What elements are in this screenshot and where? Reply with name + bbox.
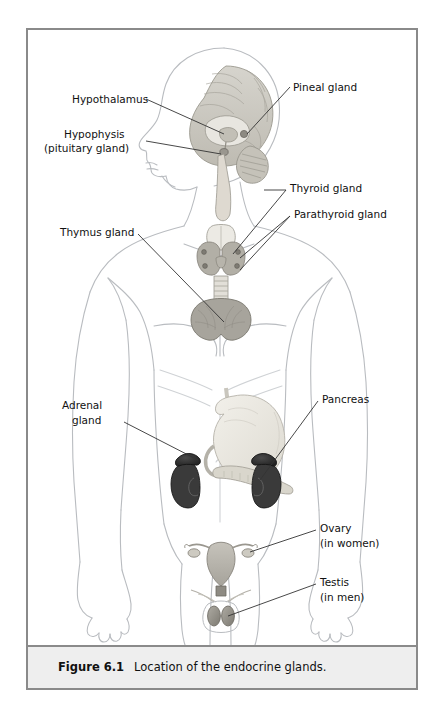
brain-sagittal-section (190, 66, 273, 221)
figure-caption-label: Figure 6.1 (58, 660, 124, 674)
leader-adrenal (124, 422, 198, 460)
uterus-organ (207, 542, 235, 586)
endocrine-glands-diagram (28, 30, 416, 645)
figure-caption-body: Location of the endocrine glands. (134, 660, 326, 674)
label-hypothalamus: Hypothalamus (72, 92, 148, 106)
abdominal-organs (171, 388, 293, 508)
label-pancreas: Pancreas (322, 392, 369, 406)
leader-ovary (250, 530, 316, 552)
thyroid-complex (197, 225, 245, 303)
pineal-gland-organ (240, 130, 247, 137)
leader-thyroid (233, 190, 286, 254)
label-thymus-gland: Thymus gland (60, 225, 134, 239)
kidney-right-organ (252, 462, 281, 508)
label-thyroid-gland: Thyroid gland (290, 181, 362, 195)
label-parathyroid-gland: Parathyroid gland (294, 207, 387, 221)
label-adrenal-line1: Adrenal (62, 398, 102, 412)
label-pineal-gland: Pineal gland (293, 80, 357, 94)
leader-testis (228, 584, 316, 616)
figure-caption: Figure 6.1Location of the endocrine glan… (58, 660, 326, 674)
figure-frame: Hypothalamus Hypophysis (pituitary gland… (26, 28, 418, 690)
label-hypophysis-line2: (pituitary gland) (44, 141, 129, 155)
ovary-right-organ (242, 549, 254, 557)
label-adrenal-line2: gland (72, 413, 101, 427)
label-testis-line2: (in men) (320, 590, 364, 604)
testis-left-organ (208, 606, 221, 626)
ovary-left-organ (188, 549, 200, 557)
figure-caption-band: Figure 6.1Location of the endocrine glan… (28, 645, 416, 688)
figure-illustration-plate: Hypothalamus Hypophysis (pituitary gland… (28, 30, 416, 645)
label-hypophysis-line1: Hypophysis (64, 127, 125, 141)
uterus-ovaries-group (185, 542, 258, 596)
label-testis-line1: Testis (320, 575, 349, 589)
label-ovary-line2: (in women) (320, 536, 379, 550)
kidney-left-organ (171, 462, 200, 508)
label-ovary-line1: Ovary (320, 521, 351, 535)
